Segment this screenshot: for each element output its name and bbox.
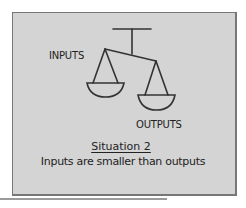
scale-beam <box>105 49 156 61</box>
inputs-label: INPUTS <box>49 50 84 61</box>
outputs-label: OUTPUTS <box>136 119 182 130</box>
caption-subtitle: Inputs are smaller than outputs <box>0 155 246 168</box>
left-pan <box>87 83 124 97</box>
divider <box>0 198 167 200</box>
balance-scale-icon <box>0 0 246 208</box>
left-pan-string <box>105 49 118 83</box>
right-pan-string <box>145 61 156 95</box>
left-pan-string <box>93 49 105 83</box>
right-pan-string <box>156 61 168 95</box>
caption-title: Situation 2 <box>0 140 246 153</box>
caption-title-text: Situation 2 <box>91 140 155 153</box>
right-pan <box>138 95 175 110</box>
